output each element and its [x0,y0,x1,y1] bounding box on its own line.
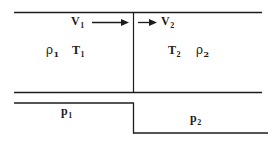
label-velocity-upstream-subscript: 1 [80,21,84,30]
label-density-upstream: ρ1 [46,44,59,57]
arrow-head-downstream [149,19,157,26]
label-pressure-downstream: p2 [190,112,201,126]
label-velocity-downstream-symbol: V [161,14,170,28]
label-temperature-upstream: T1 [72,44,84,58]
label-velocity-upstream-symbol: V [71,14,80,28]
diagram-canvas [0,0,275,141]
arrow-head-upstream [121,19,129,26]
label-pressure-downstream-symbol: p [190,111,197,125]
flow-diagram: V1 V2 ρ1 T1 T2 ρ2 p1 p2 [0,0,275,141]
label-density-downstream-subscript: 2 [204,49,210,59]
pressure-step-profile [14,103,268,134]
label-density-upstream-subscript: 1 [54,49,60,59]
velocity-arrow-upstream [92,19,129,26]
label-temperature-downstream: T2 [168,44,180,58]
label-pressure-upstream-symbol: p [61,104,68,118]
label-pressure-downstream-subscript: 2 [197,118,201,127]
label-pressure-upstream-subscript: 1 [68,111,72,120]
label-density-downstream-symbol: ρ [196,43,203,57]
label-temperature-upstream-symbol: T [72,43,80,57]
label-pressure-upstream: p1 [61,105,72,119]
label-temperature-upstream-subscript: 1 [81,50,85,59]
label-density-upstream-symbol: ρ [46,43,53,57]
label-temperature-downstream-subscript: 2 [177,50,181,59]
label-velocity-downstream: V2 [161,15,174,29]
label-density-downstream: ρ2 [196,44,209,57]
label-velocity-upstream: V1 [71,15,84,29]
label-velocity-downstream-subscript: 2 [170,21,174,30]
velocity-arrow-downstream [138,19,157,26]
label-temperature-downstream-symbol: T [168,43,176,57]
